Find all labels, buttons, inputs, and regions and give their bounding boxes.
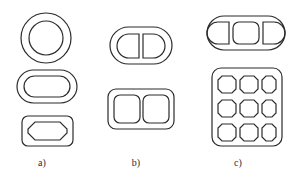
grid-cell-r3c2	[240, 124, 258, 141]
stadium-inner-cell	[24, 76, 70, 97]
stadium-outer-outline	[207, 16, 285, 50]
octagon-inner-cell	[28, 122, 67, 140]
grid-cell-r1c2	[240, 76, 258, 93]
grid-cell-r2c1	[218, 100, 236, 117]
shape-stadium-in-stadium	[17, 70, 77, 103]
grid-cell-r1c1	[218, 76, 236, 93]
rounded-cell-right	[143, 95, 169, 123]
shape-nine-cell-grid-in-rounded-rect	[212, 68, 282, 146]
group-label-b: b)	[132, 157, 140, 169]
d-cell-right	[263, 22, 285, 44]
shape-annulus-circle	[21, 13, 71, 63]
d-cell-left	[117, 34, 139, 58]
rounded-cell-middle	[233, 22, 259, 44]
shape-three-cells-in-stadium	[207, 16, 285, 50]
d-cell-left	[207, 22, 229, 44]
shape-two-d-cells-in-stadium	[110, 27, 172, 64]
grid-cell-r1c3	[262, 76, 276, 93]
rounded-rect-outer-outline	[212, 68, 282, 146]
shape-two-rounded-cells-in-rounded-rect	[108, 89, 174, 129]
grid-cell-r3c3	[262, 124, 276, 141]
stadium-outer-outline	[17, 70, 77, 103]
stadium-outer-outline	[110, 27, 172, 64]
group-b-shapes	[108, 27, 174, 129]
grid-cell-r3c1	[218, 124, 236, 141]
rounded-cell-left	[114, 95, 140, 123]
group-c-shapes	[207, 16, 285, 146]
rounded-rect-outer-outline	[22, 116, 73, 146]
group-a-shapes	[17, 13, 77, 146]
grid-cell-r2c3	[262, 100, 276, 117]
group-label-c: c)	[234, 157, 242, 169]
d-cell-right	[143, 34, 165, 58]
grid-cell-r2c2	[240, 100, 258, 117]
group-labels: a) b) c)	[38, 157, 242, 169]
group-label-a: a)	[38, 157, 46, 169]
diagram-canvas: a) b) c)	[0, 0, 296, 175]
annulus-inner-circle	[29, 21, 63, 55]
figure-root: a) b) c)	[0, 0, 296, 175]
shape-octagon-in-rounded-rect	[22, 116, 73, 146]
